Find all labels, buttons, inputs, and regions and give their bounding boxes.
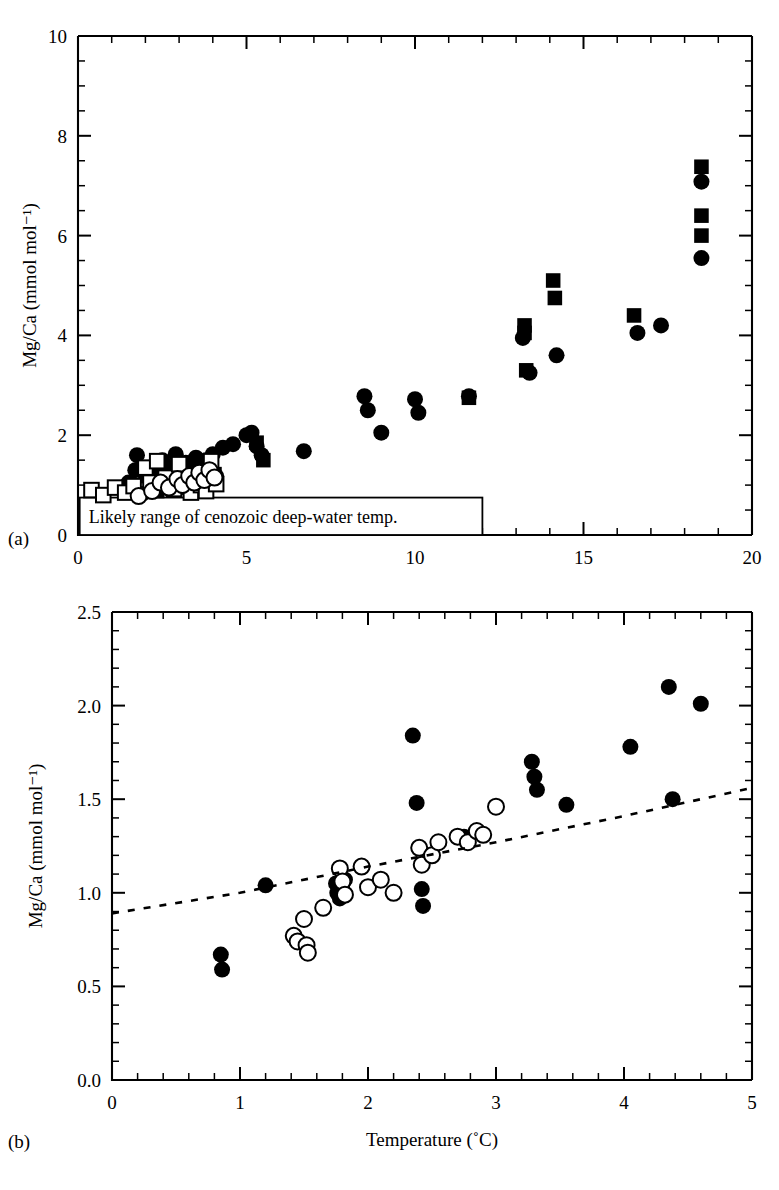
x-tick-label: 4	[619, 1092, 629, 1113]
data-point-filled-square	[694, 208, 709, 223]
data-point-filled-circle	[225, 436, 241, 452]
data-point-filled-circle	[549, 347, 565, 363]
data-point-filled-circle	[409, 795, 425, 811]
figure-container: 024681005101520Mg/Ca (mmol mol⁻¹)Likely …	[0, 0, 779, 1190]
data-point-filled-square	[519, 363, 534, 378]
x-tick-label: 0	[73, 547, 83, 568]
data-point-filled-square	[462, 390, 477, 405]
data-point-open-circle	[475, 827, 491, 843]
data-point-filled-circle	[410, 405, 426, 421]
data-point-open-circle	[386, 885, 402, 901]
x-tick-label: 0	[107, 1092, 117, 1113]
y-tick-label: 6	[58, 226, 68, 247]
y-tick-label: 10	[48, 26, 67, 47]
data-point-filled-circle	[653, 317, 669, 333]
data-point-filled-circle	[414, 881, 430, 897]
data-point-filled-circle	[629, 325, 645, 341]
data-point-filled-circle	[296, 443, 312, 459]
data-point-filled-circle	[407, 391, 423, 407]
data-point-open-square	[150, 454, 165, 469]
data-point-filled-square	[694, 159, 709, 174]
y-tick-label: 2.0	[77, 696, 101, 717]
chart-panel-a: 024681005101520Mg/Ca (mmol mol⁻¹)Likely …	[0, 8, 779, 578]
data-point-filled-square	[256, 453, 271, 468]
data-point-open-circle	[300, 945, 316, 961]
data-point-filled-square	[249, 435, 264, 450]
data-point-filled-circle	[693, 696, 709, 712]
data-point-filled-circle	[405, 728, 421, 744]
data-point-open-circle	[206, 470, 222, 486]
x-tick-label: 20	[743, 547, 762, 568]
x-tick-label: 1	[235, 1092, 245, 1113]
x-tick-label: 5	[242, 547, 252, 568]
annotation-label: Likely range of cenozoic deep-water temp…	[89, 507, 398, 527]
y-tick-label: 0.5	[77, 976, 101, 997]
y-axis-title: Mg/Ca (mmol mol⁻¹)	[19, 203, 41, 368]
data-point-filled-circle	[373, 425, 389, 441]
data-point-filled-square	[517, 326, 532, 341]
y-tick-label: 1.0	[77, 883, 101, 904]
data-point-open-circle	[337, 887, 353, 903]
data-point-filled-circle	[524, 754, 540, 770]
data-point-filled-circle	[558, 797, 574, 813]
y-tick-label: 4	[58, 325, 68, 346]
y-tick-label: 0	[58, 525, 68, 546]
y-tick-label: 2.5	[77, 602, 101, 623]
chart-panel-b: 0.00.51.01.52.02.5012345Mg/Ca (mmol mol⁻…	[0, 590, 779, 1190]
data-point-open-circle	[488, 799, 504, 815]
data-point-filled-circle	[693, 174, 709, 190]
data-point-filled-square	[694, 228, 709, 243]
data-point-filled-square	[627, 308, 642, 323]
x-tick-label: 15	[574, 547, 593, 568]
series-open-circle	[286, 799, 504, 961]
data-point-filled-circle	[213, 947, 229, 963]
data-point-open-circle	[296, 911, 312, 927]
x-axis-title: Temperature (˚C)	[366, 1129, 498, 1151]
data-point-filled-square	[548, 291, 563, 306]
series-filled-circle	[121, 174, 710, 502]
panel-b-label: (b)	[8, 1131, 30, 1153]
y-tick-label: 0.0	[77, 1070, 101, 1091]
y-tick-label: 1.5	[77, 789, 101, 810]
y-tick-label: 2	[58, 425, 68, 446]
y-tick-label: 8	[58, 126, 68, 147]
data-point-filled-circle	[415, 898, 431, 914]
panel-a-plot: 024681005101520Mg/Ca (mmol mol⁻¹)Likely …	[0, 8, 779, 578]
data-point-filled-circle	[214, 962, 230, 978]
x-tick-label: 10	[406, 547, 425, 568]
data-point-filled-circle	[693, 250, 709, 266]
x-tick-label: 5	[747, 1092, 757, 1113]
data-point-open-circle	[373, 872, 389, 888]
data-point-open-circle	[430, 834, 446, 850]
panel-a-label: (a)	[8, 528, 29, 550]
data-point-filled-circle	[356, 388, 372, 404]
x-tick-label: 3	[491, 1092, 501, 1113]
panel-b-plot: 0.00.51.01.52.02.5012345Mg/Ca (mmol mol⁻…	[0, 590, 779, 1190]
data-point-filled-square	[546, 273, 561, 288]
x-tick-label: 2	[363, 1092, 373, 1113]
data-point-filled-circle	[529, 782, 545, 798]
data-point-open-circle	[315, 900, 331, 916]
data-point-filled-circle	[360, 402, 376, 418]
data-point-filled-circle	[661, 679, 677, 695]
y-axis-title: Mg/Ca (mmol mol⁻¹)	[25, 764, 47, 929]
data-point-filled-circle	[622, 739, 638, 755]
